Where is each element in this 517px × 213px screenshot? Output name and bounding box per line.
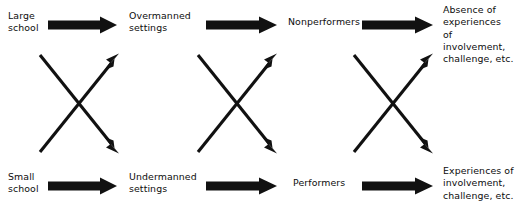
label-overmanned-settings: Overmanned settings (129, 10, 191, 35)
crossing-arrows-stage-2 (198, 54, 277, 154)
arrow-nonperformers-to-absence (362, 17, 433, 34)
crossing-arrows-stage-3 (354, 54, 433, 154)
label-undermanned-settings: Undermanned settings (129, 171, 197, 196)
arrow-large-school-to-overmanned (48, 17, 117, 34)
label-absence-of-experiences: Absence of experiences of involvement, c… (443, 4, 517, 65)
label-large-school: Large school (8, 10, 39, 35)
label-small-school: Small school (8, 171, 39, 196)
arrow-undermanned-to-performers (206, 178, 277, 195)
label-nonperformers: Nonperformers (288, 16, 360, 28)
crossing-arrows-stage-1 (40, 54, 119, 154)
label-experiences-of-involvement: Experiences of involvement, challenge, e… (443, 165, 514, 202)
arrow-small-school-to-undermanned (48, 178, 117, 195)
diagram-canvas: Large school Small school Overmanned set… (0, 0, 517, 213)
arrow-performers-to-experiences (362, 178, 433, 195)
arrow-overmanned-to-nonperformers (206, 17, 277, 34)
label-performers: Performers (293, 177, 345, 189)
